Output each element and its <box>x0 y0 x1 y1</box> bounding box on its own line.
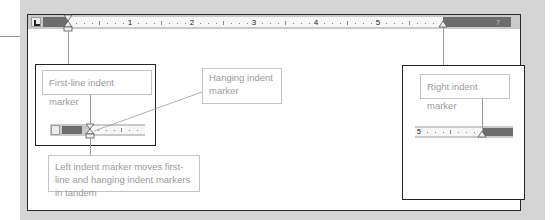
ruler-tick <box>402 23 403 24</box>
ruler-tick <box>433 23 434 24</box>
ruler-tick <box>435 132 436 133</box>
ruler-tick <box>154 23 155 24</box>
hanging-indent-label: Hanging indent marker <box>202 68 282 104</box>
divider-line <box>0 36 20 37</box>
horizontal-ruler[interactable]: 1 2 3 4 5 <box>28 15 520 29</box>
ruler-tick <box>371 23 372 24</box>
ruler-text-area: 1 2 3 4 5 <box>68 17 443 27</box>
ruler-tick <box>474 132 475 133</box>
ruler-tick <box>200 23 201 24</box>
ruler-tick <box>216 23 217 24</box>
ruler-number: 7 <box>496 18 500 28</box>
first-line-indent-label: First-line indent marker <box>42 70 152 95</box>
ruler-tick <box>247 23 248 24</box>
ruler-tick <box>332 23 333 24</box>
ruler-tick <box>262 23 263 24</box>
right-indent-label: Right indent marker <box>420 74 510 99</box>
ruler-tick <box>270 23 271 24</box>
tab-selector-icon <box>51 125 60 135</box>
ruler-tick <box>309 23 310 24</box>
ruler-tick <box>293 23 294 24</box>
ruler-tick <box>107 23 108 24</box>
ruler-tick <box>231 23 232 24</box>
mini-right-margin <box>482 128 513 136</box>
ruler-tick <box>450 130 451 134</box>
ruler-tick <box>99 21 100 25</box>
ruler-tick <box>106 130 107 131</box>
ruler-tick <box>208 23 209 24</box>
ruler-tick <box>239 23 240 24</box>
ruler-tick <box>146 23 147 24</box>
left-indent-label: Left indent marker moves first-line and … <box>48 155 200 192</box>
ruler-tick <box>363 23 364 24</box>
ruler-tick <box>161 21 162 25</box>
ruler-tick <box>409 21 410 25</box>
ruler-tick <box>466 132 467 133</box>
mini-left-margin <box>62 126 82 134</box>
ruler-tick <box>92 23 93 24</box>
mini-ruler-text-area: 5 <box>415 128 482 136</box>
ruler-tick <box>129 130 130 131</box>
ruler-tick <box>115 23 116 24</box>
ruler-tick <box>301 23 302 24</box>
ruler-tick <box>169 23 170 24</box>
ruler-tick <box>278 23 279 24</box>
ruler-tick <box>394 23 395 24</box>
ruler-number: 4 <box>314 18 318 28</box>
ruler-tick <box>340 23 341 24</box>
ruler-tick <box>114 130 115 131</box>
ruler-tick <box>177 23 178 24</box>
ruler-tick <box>386 23 387 24</box>
ruler-tick <box>223 21 224 25</box>
ruler-number: 5 <box>417 127 421 137</box>
mini-ruler-text-area <box>90 126 145 134</box>
ruler-tick <box>355 23 356 24</box>
ruler-tick <box>123 23 124 24</box>
ruler-tick <box>98 130 99 131</box>
ruler-number: 5 <box>376 18 380 28</box>
ruler-tick <box>347 21 348 25</box>
mini-ruler-left <box>50 124 145 136</box>
ruler-tick <box>425 23 426 24</box>
ruler-number: 2 <box>190 18 194 28</box>
ruler-tick <box>138 23 139 24</box>
ruler-tick <box>76 23 77 24</box>
ruler-tick <box>443 132 444 133</box>
ruler-tick <box>324 23 325 24</box>
left-margin-area <box>43 17 68 27</box>
ruler-tick <box>417 23 418 24</box>
ruler-tick <box>84 23 85 24</box>
ruler-tick <box>137 130 138 131</box>
right-margin-area: 7 <box>443 17 511 27</box>
ruler-tick <box>185 23 186 24</box>
ruler-tick <box>121 128 122 132</box>
ruler-tick <box>458 132 459 133</box>
tab-selector-left-tab-icon[interactable] <box>31 17 41 27</box>
mini-ruler-right: 5 <box>415 126 513 138</box>
ruler-tick <box>427 132 428 133</box>
ruler-number: 1 <box>128 18 132 28</box>
ruler-number: 3 <box>252 18 256 28</box>
ruler-tick <box>285 21 286 25</box>
